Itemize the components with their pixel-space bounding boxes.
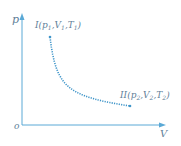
state-I-label: I(p1,V1,T1) bbox=[34, 20, 82, 31]
x-axis-arrow-icon bbox=[159, 123, 166, 128]
state-I-point bbox=[49, 36, 52, 39]
state-II-point bbox=[129, 105, 132, 108]
pv-diagram: p V o I(p1,V1,T1) II(p2,V2,T2) bbox=[0, 0, 181, 146]
isotherm-curve bbox=[50, 37, 130, 106]
origin-label: o bbox=[14, 121, 20, 131]
y-axis-arrow-icon bbox=[20, 13, 25, 20]
x-axis-label: V bbox=[160, 128, 169, 139]
state-II-label: II(p2,V2,T2) bbox=[119, 90, 170, 101]
y-axis-label: p bbox=[12, 13, 19, 26]
